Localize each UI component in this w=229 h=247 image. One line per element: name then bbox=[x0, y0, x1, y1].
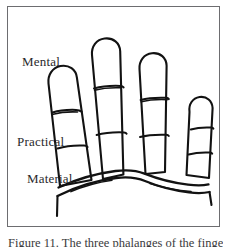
finger-index-outline bbox=[48, 66, 91, 186]
palm-left-edge bbox=[57, 196, 58, 216]
zone-label-material: Material bbox=[27, 172, 73, 185]
finger-little-crease-lower bbox=[189, 152, 213, 154]
zone-label-practical: Practical bbox=[17, 135, 64, 148]
finger-ring-outline bbox=[139, 53, 166, 174]
figure-frame: Mental Practical Material bbox=[7, 6, 220, 227]
finger-little-crease-upper bbox=[191, 127, 214, 129]
zone-label-mental: Mental bbox=[22, 55, 60, 68]
finger-ring bbox=[139, 53, 168, 174]
palm-base-line bbox=[57, 170, 212, 216]
hand-phalanges-drawing bbox=[8, 7, 219, 226]
finger-middle-outline bbox=[92, 38, 123, 179]
figure-caption: Figure 11. The three phalanges of the fi… bbox=[8, 236, 223, 247]
palm-right-edge bbox=[210, 192, 212, 205]
finger-middle bbox=[92, 38, 127, 179]
finger-little bbox=[187, 97, 214, 178]
finger-index bbox=[48, 66, 91, 186]
palm-base-line-lower bbox=[58, 177, 210, 196]
finger-little-outline bbox=[187, 97, 213, 178]
figure-page: Mental Practical Material Figure 11. The… bbox=[0, 0, 229, 247]
